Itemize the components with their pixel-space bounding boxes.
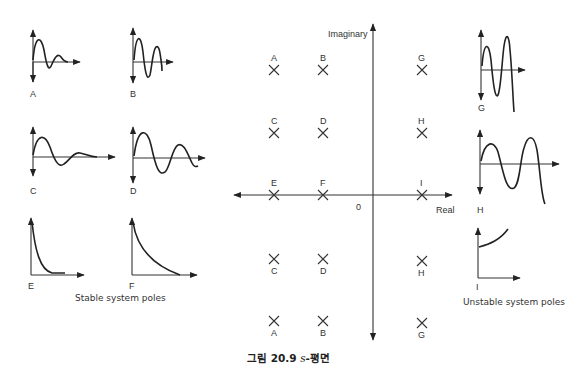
response-label-f: F (129, 281, 135, 291)
pole-h-lower: H (417, 256, 427, 278)
pole-g-lower: G (417, 318, 427, 340)
pole-d-lower: D (318, 254, 328, 276)
svg-text:G: G (418, 53, 425, 63)
response-label-c: C (30, 186, 37, 196)
svg-text:B: B (320, 328, 326, 338)
svg-text:D: D (320, 116, 327, 126)
response-plot-a: A (30, 30, 80, 99)
response-plot-d: D (130, 127, 205, 196)
response-label-i: I (476, 282, 479, 292)
svg-text:A: A (271, 53, 277, 63)
pole-a-upper: A (269, 53, 279, 75)
svg-text:G: G (418, 330, 425, 340)
response-label-h: H (477, 205, 484, 215)
svg-text:C: C (271, 266, 278, 276)
unstable-poles-caption: Unstable system poles (463, 297, 565, 307)
response-label-b: B (130, 89, 136, 99)
svg-text:E: E (271, 178, 277, 188)
svg-text:H: H (418, 268, 425, 278)
s-plane: Imaginary Real 0 A B G C D H (234, 24, 455, 340)
pole-i: I (417, 178, 427, 200)
svg-text:F: F (320, 178, 326, 188)
pole-g-upper: G (417, 53, 427, 75)
response-plot-c: C (30, 127, 115, 196)
pole-b-upper: B (318, 53, 328, 75)
svg-text:D: D (320, 266, 327, 276)
response-label-g: G (478, 103, 485, 113)
imaginary-axis-label: Imaginary (328, 29, 368, 39)
response-plot-g: G (478, 30, 525, 113)
s-plane-figure: A B C D E F Stable system poles (0, 0, 585, 387)
pole-e: E (269, 178, 279, 200)
response-plot-b: B (130, 28, 173, 99)
response-label-d: D (130, 186, 137, 196)
svg-text:A: A (271, 328, 277, 338)
pole-f: F (318, 178, 328, 200)
response-plot-e: E (28, 218, 84, 291)
stable-poles-caption: Stable system poles (75, 293, 166, 303)
response-plot-f: F (129, 218, 197, 291)
origin-label: 0 (356, 202, 361, 212)
response-label-e: E (28, 281, 34, 291)
svg-text:I: I (420, 178, 423, 188)
pole-c-upper: C (269, 116, 279, 138)
pole-h-upper: H (417, 116, 427, 138)
pole-d-upper: D (318, 116, 328, 138)
response-plot-i: I (476, 228, 520, 292)
svg-text:H: H (418, 116, 425, 126)
svg-text:B: B (320, 53, 326, 63)
response-label-a: A (30, 89, 36, 99)
pole-b-lower: B (318, 316, 328, 338)
pole-a-lower: A (269, 316, 279, 338)
pole-c-lower: C (269, 254, 279, 276)
real-axis-label: Real (436, 205, 455, 215)
figure-caption: 그림 20.9 s-평면 (247, 352, 330, 364)
response-plot-h: H (477, 130, 559, 215)
svg-text:C: C (271, 116, 278, 126)
